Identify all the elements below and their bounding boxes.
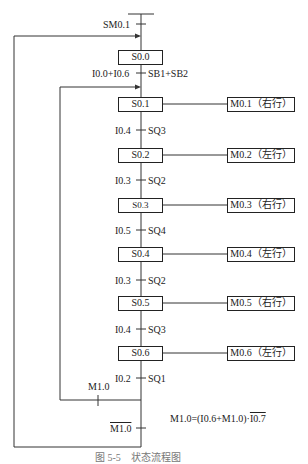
action-box-m0-1: M0.1（右行） [227,97,295,112]
transition-0-right: SB1+SB2 [148,68,188,79]
action-box-m0-3: M0.3（右行） [227,198,295,213]
step-box-s0-0: S0.0 [118,50,163,65]
arrow-icon [135,34,141,39]
step-box-s0-1: S0.1 [118,97,163,112]
transition-5-left: I0.4 [115,324,131,335]
action-box-m0-5: M0.5（右行） [227,296,295,311]
transition-2-right: SQ2 [148,175,166,186]
transition-6-right: SQ1 [148,373,166,384]
transition-3-right: SQ4 [148,225,166,236]
transition-0-left: I0.0+I0.6 [92,68,129,79]
transition-3-left: I0.5 [115,225,131,236]
transition-6-left: I0.2 [115,373,131,384]
action-box-m0-4: M0.4（左行） [227,247,295,262]
outer-loop-condition: M1.0 [110,423,131,434]
figure-caption: 图 5-5 状态流程图 [95,449,181,464]
equation-negated-term: I0.7 [250,413,266,424]
step-box-s0-2: S0.2 [118,148,163,163]
transition-4-left: I0.3 [115,275,131,286]
step-box-s0-6: S0.6 [118,346,163,361]
step-box-s0-4: S0.4 [118,247,163,262]
transition-2-left: I0.3 [115,175,131,186]
action-box-m0-2: M0.2（左行） [227,148,295,163]
arrow-icon [135,85,141,90]
step-box-s0-5: S0.5 [118,296,163,311]
latch-equation: M1.0=(I0.6+M1.0)·I0.7 [170,413,266,424]
equation-main: M1.0=(I0.6+M1.0)· [170,413,250,424]
transition-5-right: SQ3 [148,324,166,335]
action-box-m0-6: M0.6（左行） [227,346,295,361]
step-box-s0-3: S0.3 [118,198,163,213]
transition-1-left: I0.4 [115,125,131,136]
inner-loop-condition: M1.0 [88,381,109,392]
transition-1-right: SQ3 [148,125,166,136]
transition-4-right: SQ2 [148,275,166,286]
initial-transition-label: SM0.1 [103,19,130,30]
